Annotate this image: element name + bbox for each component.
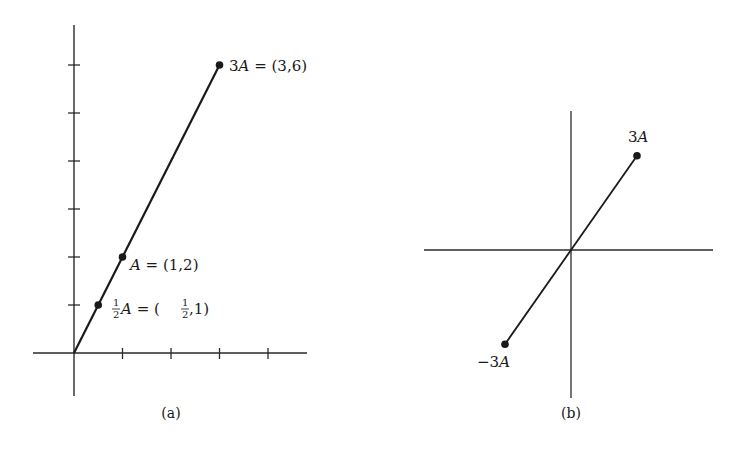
figure-a: 3A = (3,6) A = (1,2) 1 2 A = ( 1 2 ,1) (…	[33, 25, 307, 421]
svg-text:,1): ,1)	[189, 300, 209, 318]
point-A	[119, 253, 127, 261]
figure-b: 3A −3A (b)	[424, 111, 713, 421]
svg-text:1: 1	[182, 297, 188, 308]
label-A: A = (1,2)	[128, 256, 199, 274]
label-neg-3A: −3A	[477, 353, 510, 371]
label-3A: 3A	[628, 128, 649, 146]
point-half-A	[94, 301, 102, 309]
svg-text:2: 2	[182, 309, 188, 320]
figure-canvas: 3A = (3,6) A = (1,2) 1 2 A = ( 1 2 ,1) (…	[0, 0, 739, 452]
caption-b: (b)	[561, 405, 581, 421]
label-3A: 3A = (3,6)	[229, 57, 307, 75]
point-3A	[633, 152, 641, 160]
label-half-A: 1 2 A = ( 1 2 ,1)	[112, 297, 209, 320]
svg-text:A: A	[119, 300, 132, 318]
caption-a: (a)	[161, 405, 180, 421]
svg-text:2: 2	[113, 309, 119, 320]
svg-text:= (: = (	[132, 300, 160, 318]
svg-text:1: 1	[113, 297, 119, 308]
point-3A	[216, 61, 224, 69]
point-neg-3A	[501, 340, 509, 348]
